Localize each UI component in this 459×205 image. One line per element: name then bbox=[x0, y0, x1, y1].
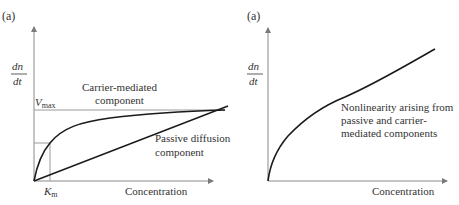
right-panel: (a) dn dt Nonlinearity arising from pass… bbox=[247, 9, 454, 197]
passive-label-line2: component bbox=[155, 146, 204, 158]
right-y-label-num: dn bbox=[248, 60, 260, 72]
carrier-label-line2: component bbox=[95, 94, 144, 106]
left-x-label: Concentration bbox=[125, 185, 188, 197]
left-panel-label: (a) bbox=[2, 9, 15, 23]
vmax-label: Vmax bbox=[35, 96, 56, 110]
left-y-label-num: dn bbox=[12, 60, 24, 72]
annotation-line2: passive and carrier- bbox=[341, 114, 427, 126]
right-panel-label: (a) bbox=[247, 9, 260, 23]
km-label: Km bbox=[43, 185, 58, 199]
figure: (a) dn dt Vmax Km Carrier-mediated compo… bbox=[0, 0, 459, 205]
annotation-line1: Nonlinearity arising from bbox=[341, 101, 454, 113]
right-y-label-den: dt bbox=[249, 75, 259, 87]
carrier-label-line1: Carrier-mediated bbox=[82, 81, 157, 93]
left-panel: (a) dn dt Vmax Km Carrier-mediated compo… bbox=[2, 9, 231, 199]
left-y-label-den: dt bbox=[13, 75, 23, 87]
annotation-line3: mediated components bbox=[341, 127, 437, 139]
right-x-label: Concentration bbox=[372, 185, 435, 197]
passive-label-line1: Passive diffusion bbox=[155, 132, 231, 144]
